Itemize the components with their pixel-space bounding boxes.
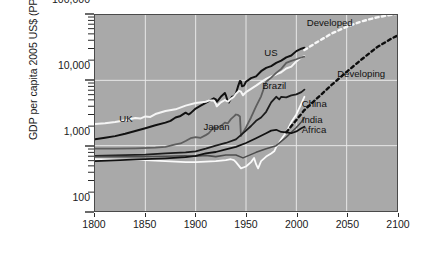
x-tick-mark: [297, 213, 298, 217]
annotation-developed: Developed: [307, 18, 353, 28]
y-axis-minor-ticks: [84, 13, 94, 213]
x-tick-label: 2050: [322, 219, 372, 230]
x-tick-label: 2100: [373, 219, 423, 230]
x-tick-label: 1900: [170, 219, 220, 230]
annotation-africa: Africa: [302, 125, 327, 135]
x-tick-mark: [195, 213, 196, 217]
x-tick-label: 1850: [120, 219, 170, 230]
annotation-us: US: [264, 48, 277, 58]
annotation-uk: UK: [119, 114, 132, 124]
plot-canvas: [95, 15, 397, 211]
x-axis-tick-labels: 1800185019001950200020502100: [94, 213, 398, 237]
annotation-china: China: [302, 99, 327, 109]
x-tick-mark: [94, 213, 95, 217]
x-tick-mark: [145, 213, 146, 217]
y-axis-tick-labels: 1001,00010,000100,000: [12, 0, 90, 198]
x-tick-label: 2000: [272, 219, 322, 230]
series-line-us: [95, 48, 304, 140]
annotation-japan: Japan: [203, 122, 229, 132]
annotation-developing: Developing: [337, 69, 385, 79]
plot-area: [94, 14, 398, 212]
x-tick-mark: [246, 213, 247, 217]
annotation-brazil: Brazil: [262, 81, 286, 91]
x-tick-mark: [398, 213, 399, 217]
x-tick-mark: [347, 213, 348, 217]
y-axis-title: GDP per capita 2005 US$ (PPP): [27, 0, 39, 149]
y-tick-label: 100: [16, 192, 90, 203]
x-tick-label: 1800: [69, 219, 119, 230]
x-tick-label: 1950: [221, 219, 271, 230]
gdp-per-capita-chart: 1001,00010,000100,000 GDP per capita 200…: [0, 0, 423, 259]
